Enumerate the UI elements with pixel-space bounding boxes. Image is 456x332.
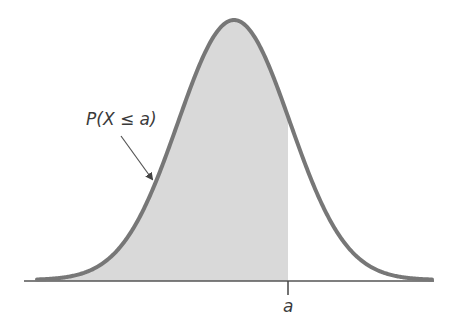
normal-curve-diagram: P(X ≤ a) a xyxy=(0,0,456,332)
a-label: a xyxy=(283,296,293,316)
shaded-area xyxy=(37,20,288,281)
pointer-arrow xyxy=(121,136,152,179)
probability-label: P(X ≤ a) xyxy=(86,109,157,129)
